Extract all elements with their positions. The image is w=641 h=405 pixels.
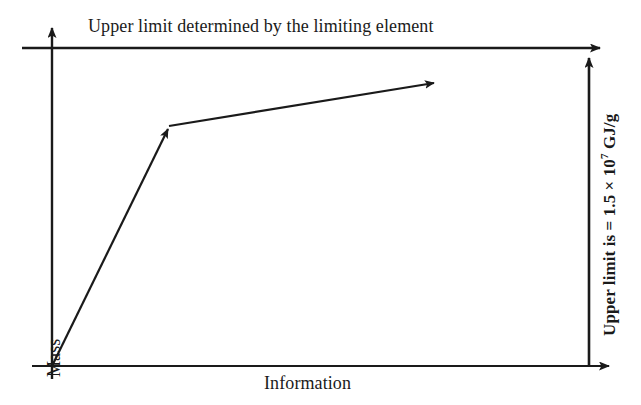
upper-limit-value-prefix: Upper limit is = 1.5 × 10	[600, 159, 619, 336]
chart-title: Upper limit determined by the limiting e…	[88, 15, 434, 37]
chart-figure: Upper limit determined by the limiting e…	[0, 0, 641, 405]
x-axis-label: Information	[264, 372, 351, 394]
y-axis-label: Mass	[43, 339, 65, 377]
upper-limit-value-suffix: GJ/g	[600, 114, 619, 154]
data-segment-shallow	[169, 83, 434, 126]
chart-plot-area	[0, 0, 641, 405]
upper-limit-value-exponent: 7	[598, 153, 610, 159]
upper-limit-value-label: Upper limit is = 1.5 × 107 GJ/g	[600, 114, 620, 336]
data-segment-steep	[52, 129, 168, 366]
